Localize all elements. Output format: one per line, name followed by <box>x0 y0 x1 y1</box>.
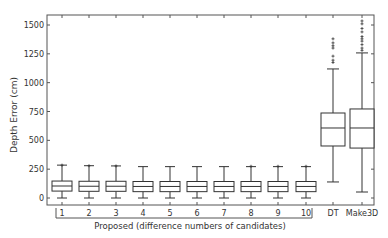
y-tick-label: 750 <box>29 108 44 117</box>
box-plot-chart: 0250500750100012501500 12345678910DTMake… <box>0 0 388 238</box>
box-iqr <box>350 109 374 148</box>
x-tick-label: Make3D <box>346 209 378 218</box>
x-tick-label: 6 <box>194 209 199 218</box>
box-8 <box>241 165 261 198</box>
x-tick-label: 4 <box>140 209 145 218</box>
box-3 <box>106 164 126 198</box>
group-bracket <box>56 208 312 218</box>
x-tick-label: 10 <box>301 209 311 218</box>
x-tick-label: 9 <box>275 209 280 218</box>
y-tick-label: 0 <box>39 194 44 203</box>
plot-frame <box>47 15 374 205</box>
y-tick-label: 250 <box>29 165 44 174</box>
x-axis-group-label: Proposed (difference numbers of candidat… <box>94 221 286 231</box>
x-tick-label: 7 <box>221 209 226 218</box>
plot-border <box>47 15 374 205</box>
y-axis-ticks: 0250500750100012501500 <box>24 21 374 203</box>
box-6 <box>187 167 207 198</box>
x-tick-label: 8 <box>248 209 253 218</box>
box-Make3D <box>350 19 374 192</box>
y-tick-label: 1000 <box>24 79 44 88</box>
y-tick-label: 1500 <box>24 21 44 30</box>
box-iqr <box>321 113 345 146</box>
box-7 <box>214 167 234 198</box>
box-9 <box>268 165 288 198</box>
y-tick-label: 1250 <box>24 50 44 59</box>
x-tick-label: DT <box>327 209 338 218</box>
y-tick-label: 500 <box>29 136 44 145</box>
x-tick-label: 3 <box>113 209 118 218</box>
x-tick-label: 1 <box>59 209 64 218</box>
box-DT <box>321 37 345 182</box>
x-tick-label: 2 <box>86 209 91 218</box>
x-tick-label: 5 <box>167 209 172 218</box>
box-series <box>52 19 374 198</box>
box-2 <box>79 164 99 198</box>
box-4 <box>133 167 153 198</box>
box-5 <box>160 167 180 198</box>
box-1 <box>52 164 72 198</box>
bracket-line <box>56 208 312 218</box>
box-10 <box>296 165 316 198</box>
